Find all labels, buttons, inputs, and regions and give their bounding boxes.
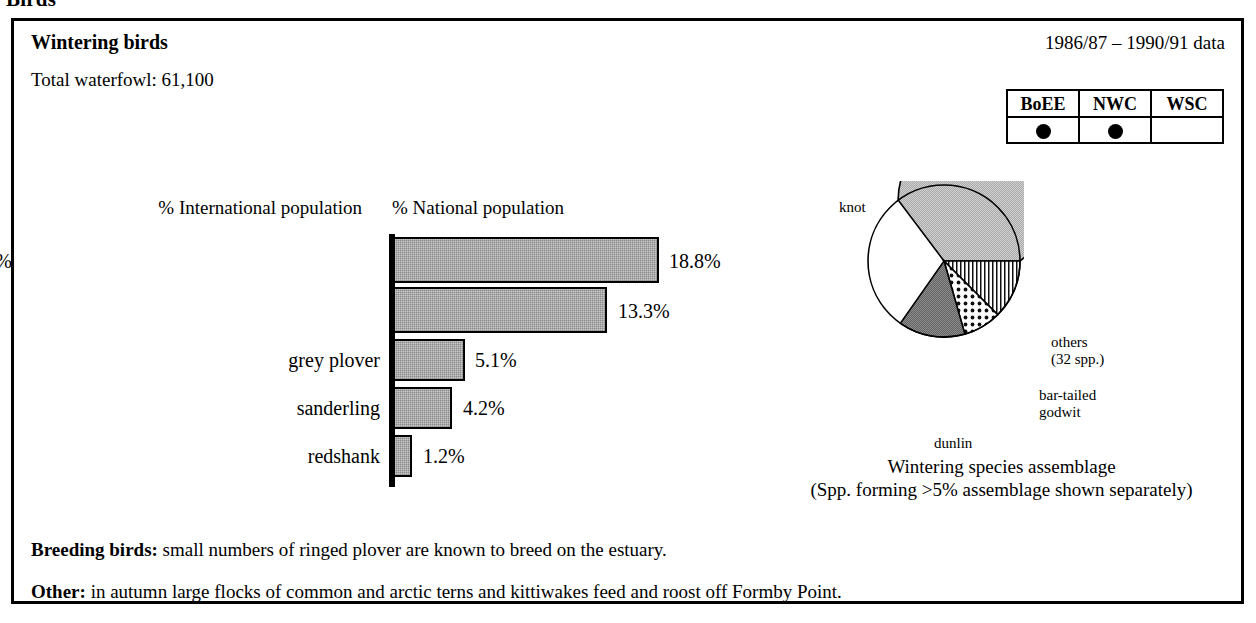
bar-row-redshank: redshank 1.2%: [14, 435, 754, 477]
pie-caption-line1: Wintering species assemblage: [759, 455, 1244, 478]
note-other: Other: in autumn large flocks of common …: [31, 581, 842, 603]
note-other-text: in autumn large flocks of common and arc…: [86, 581, 842, 602]
survey-mark-wsc: [1151, 117, 1223, 143]
data-period-label: 1986/87 – 1990/91 data: [1045, 32, 1225, 54]
survey-mark-nwc: [1079, 117, 1151, 143]
pie-slice-knot: [898, 181, 1024, 261]
survey-header-boee: BoEE: [1007, 90, 1079, 117]
species-name: redshank: [308, 445, 380, 467]
pie-caption-line2: (Spp. forming >5% assemblage shown separ…: [759, 478, 1244, 501]
note-breeding-text: small numbers of ringed plover are known…: [158, 539, 667, 560]
species-assemblage-pie-chart: knot others (32 spp.) bar-tailed godwit …: [759, 171, 1244, 501]
pie-caption: Wintering species assemblage (Spp. formi…: [759, 455, 1244, 501]
section-heading: Birds: [6, 0, 56, 12]
note-other-label: Other:: [31, 581, 86, 602]
bar-row-grey-plover: grey plover 5.1%: [14, 339, 754, 381]
bar-label-knot: knot12.9%: [0, 251, 12, 271]
pie-svg: [864, 181, 1024, 341]
pie-label-godwit-line1: bar-tailed: [1039, 387, 1096, 404]
survey-header-nwc: NWC: [1079, 90, 1151, 117]
pie-label-others: others (32 spp.): [1051, 334, 1104, 368]
survey-mark-boee: [1007, 117, 1079, 143]
national-pct-redshank: 1.2%: [423, 446, 465, 466]
international-pct: 12.9%: [0, 250, 12, 272]
bar-national-bar-tailed-godwit: [392, 287, 607, 333]
pie-label-others-line1: others: [1051, 334, 1104, 351]
pie-label-knot: knot: [839, 199, 866, 216]
note-breeding-label: Breeding birds:: [31, 539, 158, 560]
population-bar-chart: % International population % National po…: [14, 171, 754, 501]
total-waterfowl-label: Total waterfowl: 61,100: [31, 69, 214, 91]
survey-header-wsc: WSC: [1151, 90, 1223, 117]
national-pct-knot: 18.8%: [669, 251, 721, 271]
species-name: grey plover: [288, 349, 380, 371]
bar-label-redshank: redshank: [308, 446, 380, 466]
national-pct-grey-plover: 5.1%: [475, 350, 517, 370]
bar-label-grey-plover: grey plover: [288, 350, 380, 370]
species-name: sanderling: [297, 397, 380, 419]
table-row-marks: [1007, 117, 1223, 143]
national-pct-sanderling: 4.2%: [463, 398, 505, 418]
table-row-headers: BoEE NWC WSC: [1007, 90, 1223, 117]
chart-center-axis: [389, 234, 395, 487]
bar-national-redshank: [392, 435, 412, 477]
filled-dot-icon: [1036, 124, 1051, 139]
national-pct-bar-tailed-godwit: 13.3%: [618, 301, 670, 321]
pie-label-bar-tailed-godwit: bar-tailed godwit: [1039, 387, 1096, 421]
pie-label-dunlin: dunlin: [934, 435, 972, 452]
note-breeding-birds: Breeding birds: small numbers of ringed …: [31, 539, 667, 561]
pie-label-others-line2: (32 spp.): [1051, 351, 1104, 368]
bar-national-sanderling: [392, 387, 452, 429]
axis-title-international: % International population: [158, 197, 362, 219]
bar-row-knot: knot12.9% 18.8%: [14, 237, 754, 283]
wintering-birds-panel: Wintering birds 1986/87 – 1990/91 data T…: [11, 18, 1244, 604]
bar-label-sanderling: sanderling: [297, 398, 380, 418]
bar-row-bar-tailed-godwit: bar-tailed godwit7% 13.3%: [14, 287, 754, 333]
bar-national-grey-plover: [392, 339, 465, 381]
bar-national-knot: [392, 237, 659, 283]
bar-row-sanderling: sanderling 4.2%: [14, 387, 754, 429]
page-title: Wintering birds: [31, 31, 168, 54]
filled-dot-icon: [1108, 124, 1123, 139]
survey-coverage-table: BoEE NWC WSC: [1006, 89, 1224, 144]
axis-title-national: % National population: [392, 197, 564, 219]
pie-label-godwit-line2: godwit: [1039, 404, 1096, 421]
